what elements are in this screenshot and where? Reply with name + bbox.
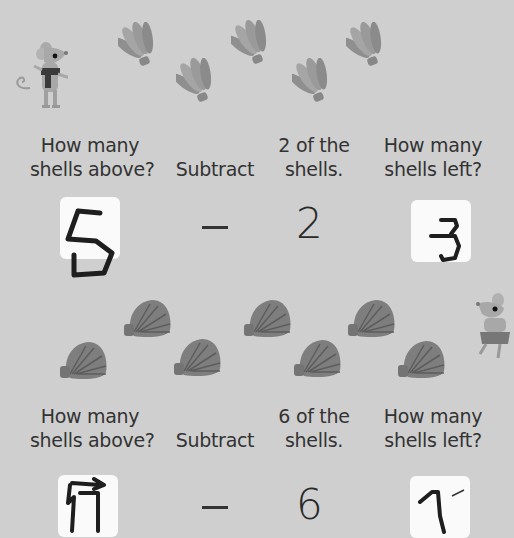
minus-sign-2 (202, 506, 228, 509)
prompt-subtrahend-2: 6 of the shells. (264, 404, 364, 452)
clam-shell-icon (244, 298, 294, 340)
clam-shell-icon (60, 340, 110, 382)
label-line: How many (30, 133, 150, 157)
handwritten-7 (58, 475, 128, 535)
label-line: Subtract (172, 157, 258, 181)
clam-shell-icon (124, 298, 174, 340)
fan-shell-icon (176, 58, 218, 106)
minus-sign (202, 226, 228, 229)
label-line: shells above? (30, 157, 150, 181)
label-line: shells above? (30, 428, 150, 452)
fan-shell-icon (231, 20, 273, 68)
mouse-illustration-top (8, 36, 68, 110)
fan-shell-icon (292, 58, 334, 106)
prompt-how-many-left: How many shells left? (378, 133, 488, 181)
label-line: shells. (264, 428, 364, 452)
label-line: shells. (264, 157, 364, 181)
label-line: shells left? (378, 428, 488, 452)
prompt-how-many-above: How many shells above? (30, 133, 150, 181)
clam-shell-icon (398, 339, 448, 381)
clam-shell-icon (174, 337, 224, 379)
label-line: shells left? (378, 157, 488, 181)
answer-box-remaining-2[interactable] (410, 476, 470, 538)
label-line: 2 of the (264, 133, 364, 157)
prompt-subtract-2: Subtract (172, 428, 258, 452)
prompt-how-many-left-2: How many shells left? (378, 404, 488, 452)
answer-box-remaining[interactable] (411, 200, 471, 262)
handwritten-5 (60, 197, 130, 277)
subtrahend-value-2: 6 (296, 484, 323, 526)
prompt-how-many-above-2: How many shells above? (30, 404, 150, 452)
label-line: How many (30, 404, 150, 428)
answer-box-total[interactable] (60, 197, 120, 259)
answer-box-total-2[interactable] (58, 475, 118, 537)
fan-shell-icon (118, 22, 160, 70)
subtrahend-value: 2 (296, 203, 323, 245)
prompt-subtrahend: 2 of the shells. (264, 133, 364, 181)
clam-shell-icon (348, 298, 398, 340)
label-line: Subtract (172, 428, 258, 452)
handwritten-3 (411, 200, 481, 270)
clam-shell-icon (294, 338, 344, 380)
fan-shell-icon (346, 22, 388, 70)
mouse-illustration-right (474, 292, 514, 362)
prompt-subtract: Subtract (172, 157, 258, 181)
handwritten-1 (410, 476, 480, 536)
label-line: How many (378, 133, 488, 157)
label-line: 6 of the (264, 404, 364, 428)
label-line: How many (378, 404, 488, 428)
